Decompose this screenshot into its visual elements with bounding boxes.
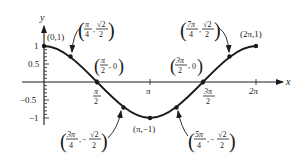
svg-text:(: ( [188,130,195,153]
svg-text:): ) [101,130,108,153]
annotation-2pi-1: (2π,1) [240,29,262,39]
svg-text:(: ( [180,19,187,42]
svg-text:0: 0 [192,62,196,71]
svg-text:2: 2 [178,66,182,75]
point-0-1 [42,44,46,48]
svg-text:,: , [207,135,209,144]
svg-text:4: 4 [85,30,89,39]
point-7pi4 [227,54,231,58]
svg-text:(: ( [94,56,100,77]
svg-text:5π: 5π [195,130,204,139]
svg-text:−: − [82,135,87,144]
svg-text:π: π [101,56,106,65]
svg-text:): ) [197,56,203,77]
cosine-chart: x y 1 0.5 −0.5 −1 π 2 [0,0,295,153]
svg-text:,: , [109,61,111,70]
svg-text:(: ( [60,130,67,153]
x-tick-pi: π [146,86,151,96]
y-tick-neg1: −1 [29,113,39,123]
y-tick-0.5: 0.5 [28,59,40,69]
svg-text:2: 2 [206,97,210,106]
x-tick-pi-over-2: π 2 [93,87,101,106]
annotation-0-1: (0,1) [47,32,64,42]
annotation-pi2: ( π 2 , 0 ) [94,56,124,77]
annotation-3pi2: ( 3π 2 , 0 ) [170,56,203,77]
x-tick-3pi-over-2: 3π 2 [203,87,215,106]
svg-text:): ) [229,130,236,153]
svg-text:2: 2 [94,97,98,106]
x-tick-2pi: 2π [249,86,259,96]
point-pi4 [68,54,72,58]
svg-text:2: 2 [92,141,96,150]
svg-text:π: π [94,87,99,96]
svg-text:π: π [85,20,90,29]
annotation-pi-neg1: (π,−1) [133,124,155,134]
svg-text:√2: √2 [218,130,226,139]
svg-text:4: 4 [189,30,193,39]
x-axis-label: x [285,76,291,87]
svg-text:7π: 7π [187,20,196,29]
point-pi [148,116,152,120]
svg-text:): ) [108,19,115,42]
svg-text:,: , [79,135,81,144]
svg-text:−: − [210,135,215,144]
svg-text:3π: 3π [203,87,213,96]
point-3pi2 [201,80,205,84]
svg-text:(: ( [78,19,85,42]
y-tick-neg0.5: −0.5 [20,95,37,105]
svg-text:,: , [199,25,201,34]
svg-text:√2: √2 [97,20,105,29]
annotation-3pi4: ( 3π 4 , − √2 2 ) [60,111,121,153]
svg-text:): ) [118,56,124,77]
svg-text:√2: √2 [90,130,98,139]
point-2pi-1 [254,44,258,48]
svg-text:,: , [93,25,95,34]
svg-text:): ) [214,19,221,42]
annotation-5pi4: ( 5π 4 , − √2 2 ) [178,111,236,153]
y-minor-ticks [44,50,49,118]
svg-text:4: 4 [197,141,201,150]
point-5pi4 [174,105,178,109]
svg-text:4: 4 [69,141,73,150]
svg-text:2: 2 [205,30,209,39]
point-pi2 [95,80,99,84]
svg-text:3π: 3π [66,130,76,139]
svg-text:3π: 3π [175,56,185,65]
y-axis-label: y [39,12,45,23]
annotation-7pi4: ( 7π 4 , √2 2 ) [180,19,229,52]
svg-text:0: 0 [113,62,117,71]
svg-text:√2: √2 [203,20,211,29]
svg-text:2: 2 [220,141,224,150]
svg-text:2: 2 [101,66,105,75]
svg-text:2: 2 [99,30,103,39]
point-3pi4 [121,105,125,109]
y-tick-1: 1 [34,41,39,51]
svg-text:,: , [188,61,190,70]
annotation-pi4: ( π 4 , √2 2 ) [72,19,115,52]
